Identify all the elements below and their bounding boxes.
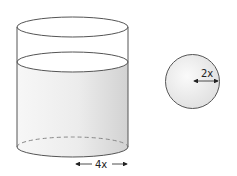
cylinder	[17, 17, 128, 157]
cylinder-top-rim	[17, 17, 128, 37]
sphere: 2x	[166, 55, 220, 109]
sphere-radius-label: 2x	[201, 68, 213, 79]
cylinder-radius-label: 4x	[95, 159, 107, 170]
sphere-body	[166, 55, 220, 109]
cylinder-radius-dimension: 4x	[76, 159, 127, 170]
liquid-surface	[17, 52, 128, 72]
diagram-canvas: 4x 2x	[0, 0, 237, 176]
